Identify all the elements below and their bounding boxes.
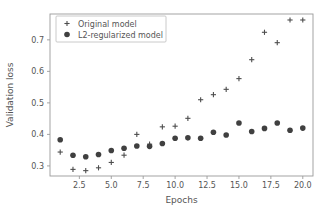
y-tick-label: 0.4: [31, 130, 44, 139]
data-point-circle: [160, 141, 166, 147]
y-axis-label: Validation loss: [5, 62, 15, 127]
x-tick-label: 12.5: [198, 181, 216, 190]
data-point-circle: [70, 152, 76, 158]
data-point-circle: [198, 135, 204, 141]
y-tick-label: 0.7: [31, 36, 44, 45]
x-tick-label: 7.5: [137, 181, 150, 190]
circle-icon: [64, 32, 70, 38]
data-point-circle: [147, 144, 153, 150]
data-point-circle: [83, 154, 89, 160]
y-tick-label: 0.5: [31, 99, 44, 108]
x-tick-label: 15.0: [230, 181, 248, 190]
legend-marker-circle-icon: [64, 32, 70, 38]
data-point-circle: [262, 126, 268, 132]
data-point-circle: [211, 129, 217, 135]
x-tick-label: 5.0: [105, 181, 118, 190]
data-point-circle: [96, 152, 102, 158]
chart-figure: 2.55.07.510.012.515.017.520.0 0.30.40.50…: [0, 0, 326, 211]
data-point-circle: [249, 129, 255, 135]
data-point-circle: [121, 145, 127, 151]
x-tick-label: 20.0: [294, 181, 312, 190]
data-point-circle: [172, 135, 178, 141]
validation-loss-scatter-chart: 2.55.07.510.012.515.017.520.0 0.30.40.50…: [0, 0, 326, 211]
data-point-circle: [134, 143, 140, 149]
data-point-circle: [57, 137, 63, 143]
data-point-circle: [300, 125, 306, 131]
data-point-circle: [108, 148, 114, 154]
x-axis-label: Epochs: [165, 195, 198, 205]
x-tick-label: 10.0: [166, 181, 184, 190]
data-point-circle: [274, 120, 280, 126]
x-tick-label: 2.5: [73, 181, 86, 190]
data-point-circle: [223, 132, 229, 138]
y-axis-ticks: 0.30.40.50.60.7: [31, 36, 50, 171]
data-point-circle: [185, 135, 191, 141]
x-tick-label: 17.5: [262, 181, 280, 190]
chart-legend: Original model L2-regularized model: [56, 16, 166, 42]
y-tick-label: 0.6: [31, 67, 44, 76]
legend-label-l2-regularized-model: L2-regularized model: [78, 31, 163, 40]
legend-label-original-model: Original model: [78, 20, 137, 29]
x-axis-ticks: 2.55.07.510.012.515.017.520.0: [73, 176, 312, 190]
data-point-circle: [287, 127, 293, 133]
y-tick-label: 0.3: [31, 162, 44, 171]
data-point-circle: [236, 120, 242, 126]
